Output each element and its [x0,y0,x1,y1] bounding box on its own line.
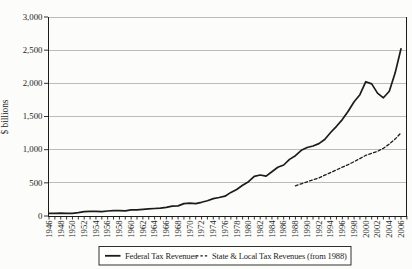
x-tick-label: 2006 [396,220,406,238]
x-tick-label: 1972 [196,221,206,238]
legend-label-state-local: State & Local Tax Revenues (from 1988) [212,251,347,261]
x-tick-label: 1958 [114,221,124,238]
x-tick-label: 1978 [232,220,242,237]
x-tick-label: 2004 [384,220,394,238]
data-series [49,49,401,214]
x-tick-label: 1954 [91,220,101,238]
x-tick-label: 1980 [243,221,253,238]
series-state-local-dashed-line [295,133,401,186]
x-tick-label: 1994 [325,220,335,238]
y-tick-label: 3,000 [23,12,43,22]
y-axis-title: $ billions [0,99,10,134]
legend-label-federal: Federal Tax Revenues [125,251,197,261]
x-tick-label: 1982 [255,221,265,238]
x-tick-label: 1996 [337,220,347,238]
x-tick-label: 1976 [220,220,230,238]
y-tick-label: 1,500 [23,111,43,121]
gridlines [48,17,407,183]
x-tick-label: 1984 [267,220,277,238]
y-tick-label: 2,500 [23,45,43,55]
x-tick-label: 1974 [208,220,218,238]
chart-canvas: 05001,0001,5002,0002,5003,000 1946194819… [0,0,412,269]
x-tick-label: 1990 [302,221,312,238]
y-tick-label: 1,000 [23,144,43,154]
x-tick-label: 1950 [67,221,77,238]
x-tick-label: 1946 [44,220,54,238]
y-tick-label: 500 [29,178,43,188]
x-tick-label: 1986 [278,220,288,238]
x-tick-label: 1964 [149,220,159,238]
legend: Federal Tax Revenues State & Local Tax R… [99,247,351,266]
y-tick-label: 2,000 [23,78,43,88]
x-tick-label: 2002 [372,221,382,238]
x-tick-label: 1988 [290,221,300,238]
y-axis-ticks: 05001,0001,5002,0002,5003,000 [23,12,48,221]
x-axis-ticks: 1946194819501952195419561958196019621964… [44,216,407,238]
x-tick-label: 2000 [361,221,371,238]
y-tick-label: 0 [38,211,43,221]
series-federal-solid-line [49,49,401,214]
x-tick-label: 1992 [314,221,324,238]
x-tick-label: 1968 [173,221,183,238]
x-tick-label: 1970 [185,221,195,238]
x-tick-label: 1952 [79,221,89,238]
x-tick-label: 1956 [102,220,112,238]
x-tick-label: 1960 [126,221,136,238]
x-tick-label: 1948 [56,221,66,238]
tax-revenues-chart: 05001,0001,5002,0002,5003,000 1946194819… [0,0,412,269]
x-tick-label: 1998 [349,221,359,238]
x-tick-label: 1966 [161,220,171,238]
x-tick-label: 1962 [138,221,148,238]
